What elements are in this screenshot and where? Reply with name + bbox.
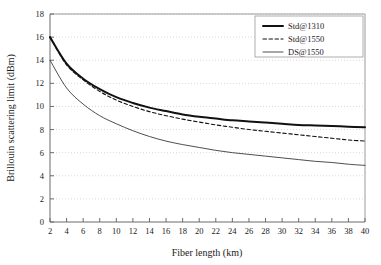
series-line-ds-1550 — [50, 60, 365, 165]
x-tick-label-16: 16 — [162, 226, 171, 236]
y-tick-label-4: 4 — [40, 171, 45, 181]
x-tick-label-2: 2 — [48, 226, 52, 236]
y-axis-ticks: 024681012141618 — [36, 9, 55, 227]
chart-legend: Std@1310Std@1550DS@1550 — [255, 16, 363, 57]
x-tick-label-22: 22 — [212, 226, 221, 236]
x-tick-label-6: 6 — [81, 226, 85, 236]
x-axis-ticks: 246810121416182022242628303234363840 — [48, 218, 369, 236]
x-axis-title: Fiber length (km) — [172, 247, 243, 259]
x-tick-label-36: 36 — [328, 226, 337, 236]
y-tick-label-0: 0 — [40, 217, 44, 227]
legend-label-std-1550: Std@1550 — [288, 34, 324, 44]
y-tick-label-8: 8 — [40, 125, 44, 135]
legend-label-ds-1550: DS@1550 — [288, 47, 324, 57]
x-tick-label-18: 18 — [178, 226, 187, 236]
x-tick-label-34: 34 — [311, 226, 320, 236]
y-tick-label-6: 6 — [40, 148, 44, 158]
y-axis-title: Brillouin scattering limit (dBm) — [5, 54, 17, 182]
x-tick-label-30: 30 — [278, 226, 287, 236]
legend-label-std-1310: Std@1310 — [288, 21, 324, 31]
chart-figure: 246810121416182022242628303234363840 024… — [0, 0, 381, 265]
x-tick-label-26: 26 — [245, 226, 254, 236]
y-tick-label-12: 12 — [36, 78, 45, 88]
brillouin-scattering-line-chart: 246810121416182022242628303234363840 024… — [0, 0, 381, 265]
x-tick-label-38: 38 — [344, 226, 353, 236]
y-tick-label-2: 2 — [40, 194, 44, 204]
x-tick-label-24: 24 — [228, 226, 237, 236]
x-tick-label-14: 14 — [145, 226, 154, 236]
x-tick-label-4: 4 — [64, 226, 69, 236]
x-tick-label-28: 28 — [261, 226, 270, 236]
y-tick-label-18: 18 — [36, 9, 45, 19]
x-tick-label-8: 8 — [98, 226, 102, 236]
x-tick-label-40: 40 — [361, 226, 370, 236]
x-tick-label-12: 12 — [129, 226, 138, 236]
x-tick-label-10: 10 — [112, 226, 121, 236]
y-tick-label-14: 14 — [36, 55, 45, 65]
x-tick-label-32: 32 — [294, 226, 303, 236]
x-tick-label-20: 20 — [195, 226, 204, 236]
y-tick-label-10: 10 — [36, 101, 45, 111]
y-tick-label-16: 16 — [36, 32, 45, 42]
